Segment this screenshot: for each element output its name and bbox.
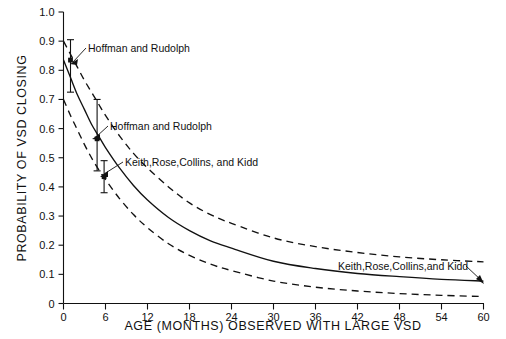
x-axis-ticks: [64, 304, 484, 310]
curve-solid-1: [64, 60, 484, 281]
y-tick-label-0: 0: [48, 298, 54, 310]
y-tick-label-4: 0.4: [39, 181, 54, 193]
arrowhead-hoffman-2: [92, 134, 100, 140]
y-tick-label-7: 0.7: [39, 93, 54, 105]
x-tick-label-0: 0: [60, 311, 66, 323]
data-curves: [64, 41, 484, 296]
y-tick-label-3: 0.3: [39, 210, 54, 222]
y-tick-label-10: 1.0: [39, 6, 54, 18]
y-tick-label-2: 0.2: [39, 239, 54, 251]
y-axis-title: PROBABILITY OF VSD CLOSING: [15, 54, 29, 261]
x-tick-label-1: 6: [102, 311, 108, 323]
y-tick-label-1: 0.1: [39, 268, 54, 280]
annotation-labels: Hoffman and Rudolph Hoffman and Rudolph …: [88, 42, 468, 272]
data-point-marker-0: [68, 58, 73, 63]
x-axis-title: AGE (MONTHS) OBSERVED WITH LARGE VSD: [124, 319, 421, 333]
annotation-keith-rose-collins-kidd-left: Keith,Rose,Collins, and Kidd: [125, 156, 258, 168]
x-tick-label-9: 54: [435, 311, 447, 323]
y-tick-label-8: 0.8: [39, 64, 54, 76]
annotation-hoffman-rudolph-2: Hoffman and Rudolph: [110, 120, 212, 132]
y-tick-label-5: 0.5: [39, 152, 54, 164]
leader-hoffman-1: [73, 48, 86, 62]
chart-figure: 00.10.20.30.40.50.60.70.80.91.0 06121824…: [0, 0, 506, 339]
leader-hoffman-2: [96, 126, 108, 137]
y-tick-label-9: 0.9: [39, 35, 54, 47]
y-tick-label-6: 0.6: [39, 123, 54, 135]
annotation-keith-rose-collins-kidd-right: Keith,Rose,Collins,and Kidd: [338, 260, 468, 272]
annotation-hoffman-rudolph-1: Hoffman and Rudolph: [88, 42, 190, 54]
vsd-closing-probability-chart: 00.10.20.30.40.50.60.70.80.91.0 06121824…: [0, 0, 506, 339]
curve-dashed-0: [64, 41, 484, 262]
y-axis-ticks: [59, 12, 64, 304]
x-tick-label-10: 60: [477, 311, 489, 323]
y-axis-tick-labels: 00.10.20.30.40.50.60.70.80.91.0: [39, 6, 54, 310]
